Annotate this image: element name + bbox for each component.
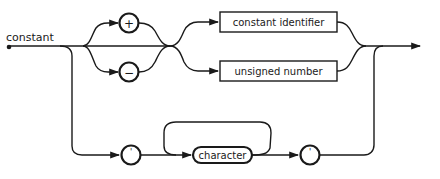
minus-branch-line [83,46,118,72]
minus-symbol: − [124,66,134,80]
identifier-merge-line [337,22,366,46]
quote-open-symbol: ' [130,148,132,157]
minus-merge-line [139,46,170,72]
constant-identifier-label: constant identifier [233,17,325,28]
number-merge-line [337,46,366,71]
unsigned-number-box: unsigned number [220,61,337,81]
quote-close-symbol: ' [309,148,311,157]
character-label: character [199,150,248,161]
diagram-title: constant [6,31,55,44]
string-branch-line [60,46,119,155]
plus-terminal: + [120,14,139,33]
plus-symbol: + [124,17,134,31]
minus-terminal: − [120,63,139,82]
number-branch-line [170,46,218,71]
identifier-branch-line [170,22,218,46]
unsigned-number-label: unsigned number [234,66,323,77]
constant-identifier-box: constant identifier [220,12,337,32]
syntax-diagram: constant + − constant identifier unsigne… [0,0,440,179]
quote-open-terminal: ' [122,146,141,165]
plus-branch-line [83,23,118,46]
plus-merge-line [139,23,170,46]
quote-close-terminal: ' [301,146,320,165]
character-box: character [193,147,252,163]
